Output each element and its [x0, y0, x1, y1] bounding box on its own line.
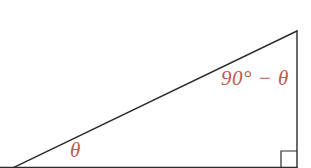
hypotenuse-line [0, 31, 297, 168]
geometry-figure-canvas: 90° − θ θ [0, 0, 311, 168]
right-angle-icon [281, 151, 297, 167]
complement-angle-label: 90° − θ [221, 68, 289, 89]
theta-angle-label: θ [70, 140, 80, 161]
